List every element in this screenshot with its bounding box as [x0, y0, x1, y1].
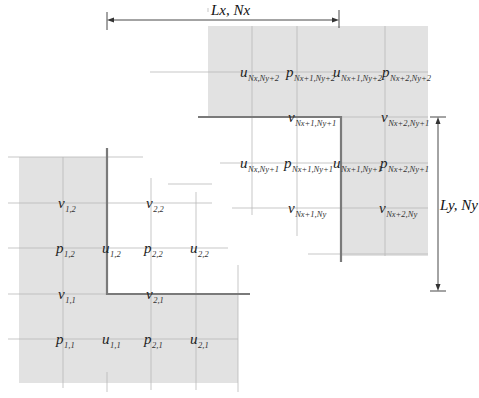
variable-subscript: 1,1 [110, 340, 121, 350]
variable-symbol: u [240, 155, 248, 171]
upper-right-boundary [198, 117, 341, 262]
y-dimension-label: Ly, Ny [439, 197, 478, 213]
x-dimension-label: Lx, Nx [210, 2, 251, 18]
variable-symbol: u [190, 240, 198, 256]
variable-subscript: 1,1 [64, 340, 75, 350]
variable-subscript: Nx+2,Ny [385, 209, 417, 219]
variable-subscript: 2,1 [152, 340, 163, 350]
variable-symbol: p [379, 155, 388, 171]
variable-subscript: Nx+1,Ny+1 [340, 164, 382, 174]
variable-label-u22: u2,2 [190, 240, 209, 259]
variable-label-v22: v2,2 [146, 195, 165, 214]
variable-subscript: 2,2 [153, 204, 164, 214]
variable-label-uNxNy1: uNx,Ny+1 [240, 155, 279, 174]
variable-subscript: Nx,Ny+2 [247, 73, 280, 83]
variable-symbol: p [283, 155, 292, 171]
variable-symbol: u [240, 64, 248, 80]
variable-symbol: p [55, 331, 64, 347]
variable-subscript: 1,2 [110, 249, 121, 259]
lower-left-boundary [107, 148, 250, 294]
variable-symbol: p [285, 64, 294, 80]
variable-symbol: v [288, 200, 295, 216]
variable-symbol: v [379, 200, 386, 216]
variable-subscript: Nx+1,Ny [294, 209, 326, 219]
variable-subscript: Nx+1,Ny+1 [291, 164, 333, 174]
variable-symbol: u [333, 64, 341, 80]
variable-subscript: 2,1 [198, 340, 209, 350]
variable-symbol: v [58, 195, 65, 211]
variable-subscript: 2,1 [153, 295, 164, 305]
variable-subscript: Nx+1,Ny+2 [340, 73, 383, 83]
variable-subscript: Nx+2,Ny+2 [389, 73, 432, 83]
variable-subscript: Nx+2,Ny+1 [387, 164, 429, 174]
variable-symbol: u [190, 331, 198, 347]
variable-subscript: 2,2 [152, 249, 163, 259]
variable-subscript: Nx,Ny+1 [247, 164, 279, 174]
variable-symbol: p [381, 64, 390, 80]
variable-subscript: Nx+1,Ny+1 [294, 118, 336, 128]
variable-subscript: 1,2 [64, 249, 75, 259]
variable-label-pNx1Ny1: pNx+1,Ny+1 [283, 155, 333, 174]
variable-subscript: 2,2 [198, 249, 209, 259]
variable-subscript: 1,2 [65, 204, 76, 214]
variable-label-p22: p2,2 [143, 240, 163, 259]
variable-symbol: v [146, 195, 153, 211]
variable-symbol: v [58, 286, 65, 302]
variable-subscript: Nx+2,Ny+1 [387, 118, 429, 128]
variable-symbol: p [143, 240, 152, 256]
variable-symbol: v [288, 109, 295, 125]
variable-subscript: Nx+1,Ny+2 [293, 73, 336, 83]
variable-symbol: v [381, 109, 388, 125]
variable-subscript: 1,1 [65, 295, 76, 305]
variable-symbol: u [102, 331, 110, 347]
variable-symbol: u [333, 155, 341, 171]
variable-symbol: v [146, 286, 153, 302]
variable-symbol: u [102, 240, 110, 256]
staggered-grid-diagram: Lx, Nx Ly, Ny v1,2v2,2p1,2u1,2p2,2u2,2v1… [0, 0, 479, 398]
upper-right-ghost-region [208, 26, 428, 256]
variable-symbol: p [55, 240, 64, 256]
variable-symbol: p [143, 331, 152, 347]
variable-label-vNx1Ny: vNx+1,Ny [288, 200, 326, 219]
